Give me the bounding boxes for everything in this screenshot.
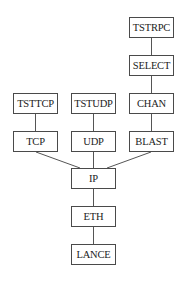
node-tsttcp: TSTTCP [13, 93, 58, 114]
node-lance: LANCE [71, 244, 116, 265]
node-chan: CHAN [129, 93, 174, 114]
node-udp: UDP [71, 131, 116, 152]
node-select: SELECT [129, 55, 174, 76]
edge-tcp-ip [36, 152, 80, 168]
node-tstudp: TSTUDP [71, 93, 116, 114]
node-ip: IP [71, 168, 116, 189]
edge-blast-ip [107, 152, 151, 168]
node-tcp: TCP [13, 131, 58, 152]
protocol-graph-diagram: TSTRPC SELECT TSTTCP TSTUDP CHAN TCP UDP… [0, 0, 182, 281]
node-eth: ETH [71, 206, 116, 227]
node-tstrpc: TSTRPC [129, 17, 174, 38]
node-blast: BLAST [129, 131, 174, 152]
